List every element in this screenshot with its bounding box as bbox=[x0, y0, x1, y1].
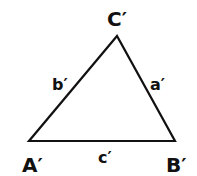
side-label-b: b′ bbox=[52, 75, 68, 94]
side-label-a: a′ bbox=[150, 75, 165, 94]
side-label-c: c′ bbox=[98, 148, 112, 167]
triangle-diagram: C′ b′ a′ A′ c′ B′ bbox=[0, 0, 197, 176]
vertex-label-a: A′ bbox=[22, 153, 43, 176]
vertex-label-c: C′ bbox=[107, 7, 127, 31]
vertex-label-b: B′ bbox=[166, 153, 187, 176]
